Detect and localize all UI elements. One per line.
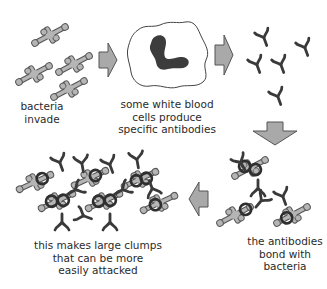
label-bacteria-invade: bacteria invade	[12, 100, 72, 125]
antibody-icon	[55, 214, 69, 230]
bacteria-group	[12, 18, 96, 106]
antibody-icon	[296, 38, 315, 58]
antibody-icon	[51, 153, 70, 173]
bacterium-icon	[12, 57, 56, 91]
arrow-right-icon	[215, 35, 233, 75]
antibody-icon	[269, 87, 288, 107]
arrow-down-icon	[253, 122, 297, 145]
antibody-icon	[255, 28, 274, 48]
antibodies-group	[248, 28, 315, 107]
antibody-icon	[103, 214, 117, 230]
bacterium-icon	[28, 18, 72, 52]
antibody-icon	[272, 55, 291, 75]
bonded-bacterium-icon	[213, 198, 257, 232]
bonded-bacterium-icon	[270, 198, 314, 232]
white-blood-cell-icon	[127, 22, 207, 88]
antibody-icon	[248, 55, 267, 75]
bacterium-icon	[35, 185, 79, 218]
bonded-bacterium-icon	[228, 150, 273, 186]
antibody-icon	[251, 180, 265, 196]
arrow-right-icon	[99, 43, 117, 77]
antibody-icon	[129, 151, 146, 169]
bacterium-icon	[52, 47, 96, 81]
bacterium-icon	[13, 166, 57, 199]
antibody-icon	[274, 187, 293, 207]
label-antibodies-bond: the antibodies bond with bacteria	[240, 235, 327, 273]
bonded-group	[213, 150, 314, 232]
label-white-blood-cells: some white blood cells produce specific …	[112, 98, 222, 136]
arrow-left-icon	[189, 182, 208, 216]
bacterium-icon	[82, 185, 126, 218]
label-large-clumps: this makes large clumps that can be more…	[8, 239, 188, 277]
clump-group	[13, 151, 181, 230]
